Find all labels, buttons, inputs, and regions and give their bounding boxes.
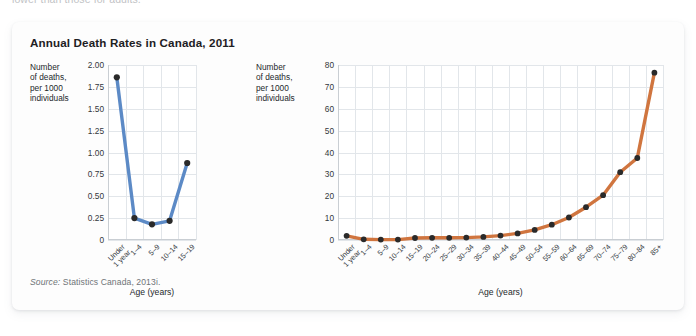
data-point-marker — [498, 233, 504, 239]
y-axis-tick-label: 1.50 — [88, 104, 104, 114]
y-axis-tick-label: 80 — [325, 60, 334, 70]
source-label: Source: — [30, 277, 60, 287]
data-point-marker — [532, 227, 538, 233]
y-axis-tick-label: 30 — [325, 169, 334, 179]
figure-page: lower than those for adults. Annual Deat… — [0, 0, 696, 336]
x-axis-caption-left: Age (years) — [108, 287, 196, 297]
figure-source: Source: Statistics Canada, 2013i. — [30, 277, 160, 287]
chart-panel-all-ages: Number of deaths, per 1000 individuals 0… — [252, 22, 684, 310]
data-point-marker — [617, 169, 623, 175]
data-point-marker — [378, 237, 384, 243]
y-axis-tick-label: 10 — [325, 213, 334, 223]
y-axis-tick-label: 60 — [325, 104, 334, 114]
plot-area-children — [108, 65, 196, 240]
data-point-marker — [131, 215, 137, 221]
y-axis-tick-label: 20 — [325, 191, 334, 201]
data-point-marker — [412, 235, 418, 241]
gridline-vertical — [663, 65, 664, 240]
x-axis-caption-right: Age (years) — [338, 287, 663, 297]
data-point-marker — [344, 233, 350, 239]
y-axis-tick-label: 1.00 — [88, 148, 104, 158]
chart-panel-children: Number of deaths, per 1000 individuals 0… — [12, 22, 252, 310]
plot-area-all-ages — [338, 65, 663, 240]
data-point-marker — [600, 192, 606, 198]
data-point-marker — [446, 235, 452, 241]
data-point-marker — [583, 204, 589, 210]
y-axis-tick-label: 1.75 — [88, 82, 104, 92]
line-series-children — [108, 65, 196, 240]
data-point-marker — [652, 70, 658, 76]
data-point-marker — [184, 160, 190, 166]
data-point-marker — [149, 221, 155, 227]
data-point-marker — [566, 215, 572, 221]
y-axis-tick-label: 0.50 — [88, 191, 104, 201]
data-point-marker — [361, 236, 367, 242]
y-axis-tick-label: 50 — [325, 126, 334, 136]
data-point-marker — [515, 231, 521, 237]
data-point-marker — [114, 74, 120, 80]
data-point-marker — [463, 235, 469, 241]
y-axis-tick-label: 2.00 — [88, 60, 104, 70]
y-axis-tick-label: 1.25 — [88, 126, 104, 136]
data-point-marker — [481, 234, 487, 240]
data-point-marker — [395, 237, 401, 243]
series-line — [117, 77, 187, 224]
figure-card: Annual Death Rates in Canada, 2011 Numbe… — [12, 22, 684, 310]
source-text: Statistics Canada, 2013i. — [60, 277, 160, 287]
data-point-marker — [429, 235, 435, 241]
y-axis-title-right: Number of deaths, per 1000 individuals — [256, 62, 326, 104]
y-axis-tick-label: 0 — [329, 235, 334, 245]
y-axis-tick-label: 70 — [325, 82, 334, 92]
gridline-vertical — [196, 65, 197, 240]
y-axis-tick-label: 0.25 — [88, 213, 104, 223]
series-line — [347, 73, 655, 240]
page-bleed-text: lower than those for adults. — [12, 0, 141, 5]
line-series-all-ages — [338, 65, 663, 240]
data-point-marker — [167, 218, 173, 224]
y-axis-tick-label: 40 — [325, 148, 334, 158]
gridline-horizontal — [108, 240, 196, 241]
y-axis-tick-label: 0.75 — [88, 169, 104, 179]
data-point-marker — [634, 155, 640, 161]
data-point-marker — [549, 222, 555, 228]
y-axis-tick-label: 0 — [99, 235, 104, 245]
